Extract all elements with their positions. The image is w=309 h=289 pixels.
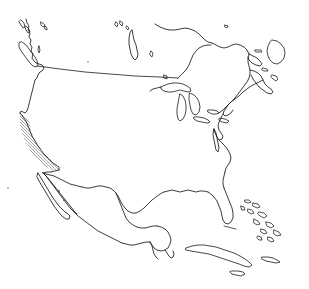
- lake-superior: [161, 83, 191, 92]
- prince-edward-island: [262, 68, 268, 71]
- virginia-carolina-outer-banks: [219, 140, 231, 172]
- interior-dot-d: [7, 187, 8, 188]
- hudson-bay-islet-b: [120, 21, 123, 26]
- cuba-outline: [186, 245, 252, 267]
- anticosti-island: [255, 50, 262, 52]
- bahamas-island-2: [253, 203, 260, 208]
- florida-keys: [224, 226, 236, 229]
- hudson-bay-islet-c: [126, 26, 129, 30]
- interior-marks-group: [7, 61, 88, 201]
- cape-breton-island: [271, 75, 278, 81]
- gulf-of-campeche-coast: [116, 193, 157, 228]
- vancouver-island-outline: [19, 42, 38, 67]
- canada-central-east-group: [155, 24, 249, 78]
- bahamas-island-5: [254, 219, 260, 225]
- usa-canada-border-49th-parallel: [37, 66, 178, 78]
- bahamas-island-3: [248, 209, 254, 214]
- central-america-pacific-tail: [150, 242, 158, 259]
- strait-islet: [38, 46, 40, 53]
- political-borders-group: [37, 66, 178, 78]
- baja-california-group: [37, 173, 77, 219]
- georgia-coast: [223, 172, 225, 188]
- bahamas-island-9: [268, 237, 274, 242]
- texas-gulf-coast: [116, 192, 164, 213]
- newfoundland-outline: [267, 40, 285, 64]
- hudson-bay-south-and-quebec-shore: [155, 24, 212, 43]
- bahamas-island-6: [266, 222, 274, 228]
- hispaniola-west-tip: [262, 257, 280, 263]
- haida-gwaii-north: [19, 20, 25, 28]
- haida-gwaii-south: [25, 26, 30, 33]
- hudson-bay-west-shore: [129, 30, 138, 60]
- caribbean-group: [186, 200, 281, 276]
- gulf-coast-group: [82, 186, 208, 213]
- mexico-pacific-coast: [43, 173, 122, 243]
- bahamas-island-1: [245, 200, 251, 203]
- new-england-coast: [231, 80, 263, 102]
- quebec-north-shore-st-lawrence: [212, 43, 249, 54]
- interior-dot-b: [63, 199, 65, 201]
- north-america-outline-map: North America outline map: [0, 0, 309, 289]
- bahamas-island-7: [261, 229, 267, 234]
- bahamas-group: [241, 200, 281, 242]
- lake-michigan: [177, 94, 186, 121]
- yucatan-peninsula-outline: [150, 226, 171, 251]
- pacific-islet-b: [45, 26, 47, 30]
- gulf-coast-alabama-louisiana: [164, 190, 208, 192]
- pacific-islet-a: [41, 22, 45, 27]
- rio-grande-border: [82, 186, 116, 193]
- hudson-strait-islet: [225, 25, 228, 28]
- interior-dot-c: [87, 61, 88, 62]
- mexico-group: [43, 173, 174, 259]
- us-atlantic-coast-group: [213, 80, 263, 188]
- hudson-bay-islet-a: [115, 22, 118, 27]
- florida-group: [208, 188, 236, 229]
- interior-dot-a: [58, 190, 60, 192]
- new-brunswick-nova-scotia: [250, 70, 273, 94]
- pacific-coast-washington-oregon: [20, 80, 35, 113]
- lake-erie: [194, 117, 210, 123]
- bahamas-island-11: [241, 206, 245, 210]
- lake-ontario: [208, 110, 219, 114]
- james-bay-islet: [150, 51, 153, 57]
- bahamas-island-8: [274, 230, 281, 236]
- great-lakes-group: [150, 75, 219, 123]
- lake-superior-north-shore-link: [150, 87, 161, 91]
- chesapeake-bay: [213, 129, 219, 152]
- lake-huron: [189, 93, 200, 115]
- gaspe-peninsula: [248, 54, 262, 66]
- bahamas-island-4: [258, 212, 267, 218]
- st-lawrence-river-valley: [219, 54, 250, 113]
- canada-northwest-coast-group: [20, 19, 44, 113]
- california-coast-highlight-edge: [20, 113, 59, 170]
- jamaica-outline: [230, 271, 245, 276]
- bahamas-island-10: [257, 236, 262, 240]
- mid-atlantic-coast-new-jersey-delaware: [214, 114, 223, 140]
- california-southern-coast: [43, 170, 59, 173]
- mexico-southern-isthmus: [122, 242, 150, 245]
- hudson-bay-group: [115, 21, 228, 60]
- map-figure: North America outline map: [0, 0, 309, 289]
- florida-peninsula-outline: [208, 188, 233, 224]
- ontario-quebec-interior-boundary: [178, 45, 211, 78]
- maritimes-group: [219, 40, 285, 113]
- belize-honduras-coast: [165, 250, 174, 258]
- baja-california-peninsula-outline: [37, 173, 70, 219]
